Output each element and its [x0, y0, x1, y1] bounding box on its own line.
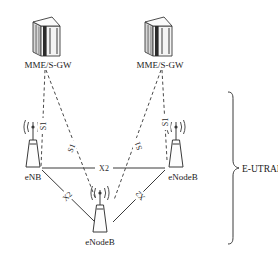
- link-label-s1-left-lower-group: S1: [63, 139, 79, 158]
- antenna-tower-icon-bottom: [91, 186, 109, 232]
- link-label-x2-left-diagonal-group: X2: [57, 186, 77, 206]
- server-rack-icon-left: [33, 17, 60, 56]
- core-left-label: MME/S-GW: [25, 60, 73, 70]
- link-label-s1-right-lower-group: S1: [130, 137, 146, 156]
- group-label-eutran: E-UTRAN: [242, 164, 278, 174]
- link-label-x2-horizontal-group: X2: [95, 163, 113, 174]
- server-rack-icon-right: [145, 17, 172, 56]
- link-label-s1-left-upper: S1: [39, 122, 48, 130]
- link-label-x2-horizontal: X2: [99, 164, 109, 173]
- curly-brace-right-icon: [228, 92, 239, 244]
- diagram-canvas: MME/S-GW MME/S-GW eNB: [0, 0, 278, 261]
- link-label-s1-right-upper-group: S1: [160, 114, 171, 130]
- link-s1-left-lower: [46, 70, 96, 200]
- link-label-s1-left-upper-group: S1: [38, 118, 49, 134]
- link-label-s1-right-upper: S1: [161, 118, 170, 126]
- enb-left-label: eNB: [25, 172, 42, 182]
- s1-links-group: [41, 70, 167, 200]
- core-right-label: MME/S-GW: [137, 60, 185, 70]
- network-diagram: MME/S-GW MME/S-GW eNB: [0, 0, 278, 261]
- enb-right-label: eNodeB: [168, 172, 198, 182]
- link-label-x2-right-diagonal-group: X2: [130, 186, 150, 206]
- enb-bottom-label: eNodeB: [85, 237, 115, 247]
